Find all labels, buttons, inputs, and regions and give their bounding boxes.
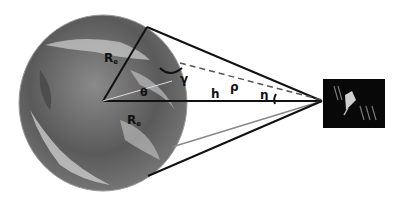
label-rho: ρ xyxy=(230,80,239,94)
eta-arc xyxy=(274,94,276,104)
label-h: h xyxy=(211,87,220,101)
satellite xyxy=(323,79,385,128)
satellite-geometry-diagram: Re Re γ θ h ρ η xyxy=(0,0,403,200)
label-theta: θ xyxy=(140,86,148,99)
earth xyxy=(19,15,187,191)
label-gamma: γ xyxy=(180,72,188,86)
label-eta: η xyxy=(260,88,269,102)
